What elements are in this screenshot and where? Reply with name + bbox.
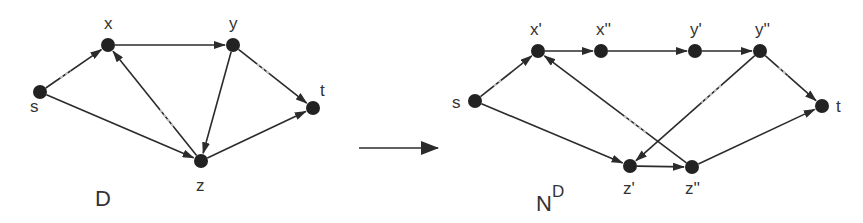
nd-edge-s-z1: [481, 104, 622, 163]
graph-d-nodes: sxytz: [30, 14, 325, 195]
d-edge-s-z: [46, 95, 193, 158]
graph-nd-nodes: sx'x''y'y''tz'z'': [452, 20, 841, 198]
nd-edge-z2-t: [698, 109, 814, 164]
nd-node-label-s: s: [452, 93, 461, 112]
d-node-label-y: y: [229, 14, 238, 33]
nd-node-y2: [753, 44, 767, 58]
graph-nd-edges: [480, 51, 816, 167]
nd-edge-y2-z1: [636, 56, 755, 161]
d-node-y: [226, 38, 240, 52]
d-node-label-x: x: [104, 14, 113, 33]
d-node-label-z: z: [196, 176, 205, 195]
d-node-label-t: t: [320, 81, 325, 100]
d-edge-highlight: [257, 64, 269, 73]
d-edge-z-t: [207, 111, 305, 158]
graph-nd-title-superscript: D: [552, 182, 564, 201]
graph-d: sxytz D: [30, 14, 325, 211]
nd-node-t: [815, 99, 829, 113]
nd-edge-s-x1: [480, 56, 531, 97]
nd-edge-z1-z2: [637, 166, 684, 167]
d-node-t: [306, 101, 320, 115]
graph-nd: sx'x''y'y''tz'z'' ND: [452, 20, 841, 216]
nd-node-label-y1: y': [690, 20, 702, 39]
nd-node-label-y2: y'': [755, 20, 770, 39]
nd-node-z1: [623, 159, 637, 173]
nd-node-x2: [594, 44, 608, 58]
nd-node-x1: [531, 44, 545, 58]
graph-nd-title: ND: [536, 182, 564, 216]
graph-d-title: D: [95, 186, 111, 211]
d-edge-z-x: [113, 51, 197, 155]
nd-node-y1: [688, 44, 702, 58]
nd-node-label-x1: x': [530, 20, 542, 39]
nd-node-label-t: t: [836, 97, 841, 116]
d-edge-s-x: [46, 50, 102, 88]
nd-node-label-z1: z': [623, 179, 635, 198]
nd-node-z2: [685, 160, 699, 174]
d-node-z: [194, 154, 208, 168]
nd-edge-y2-t: [765, 56, 816, 101]
nd-node-label-x2: x'': [596, 20, 611, 39]
d-edge-y-t: [238, 49, 306, 103]
nd-node-s: [468, 94, 482, 108]
diagram-canvas: sxytz D sx'x''y'y''tz'z'' ND: [0, 0, 863, 223]
nd-edge-z2-x1: [544, 56, 686, 163]
d-node-label-s: s: [30, 97, 39, 116]
nd-node-label-z2: z'': [685, 179, 700, 198]
d-node-x: [101, 38, 115, 52]
d-edge-y-z: [203, 52, 231, 154]
graph-d-edges: [46, 45, 307, 158]
